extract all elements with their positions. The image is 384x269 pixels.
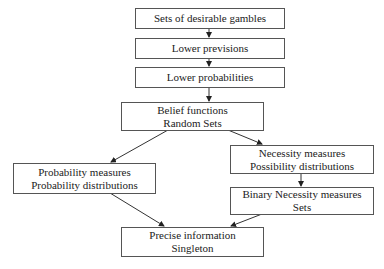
node-label: Lower probabilities: [167, 71, 253, 84]
node-sublabel: Possibility distributions: [250, 160, 354, 173]
node-label: Probability measures: [38, 166, 131, 179]
node-sublabel: Probability distributions: [31, 179, 138, 192]
node-sublabel: Singleton: [171, 242, 213, 255]
node-precise-information: Precise information Singleton: [121, 227, 264, 257]
node-probability-measures: Probability measures Probability distrib…: [13, 163, 156, 194]
node-binary-necessity: Binary Necessity measures Sets: [230, 187, 374, 215]
node-label: Lower previsions: [172, 42, 249, 55]
node-label: Sets of desirable gambles: [154, 12, 266, 25]
edge-belief-necessity: [228, 130, 262, 144]
edge-belief-probability: [111, 130, 168, 162]
node-belief-functions: Belief functions Random Sets: [121, 102, 264, 131]
node-necessity-measures: Necessity measures Possibility distribut…: [230, 145, 374, 174]
node-label: Necessity measures: [259, 147, 345, 160]
node-desirable-gambles: Sets of desirable gambles: [135, 8, 285, 29]
edge-probability-precise: [110, 193, 164, 226]
node-label: Belief functions: [157, 104, 228, 117]
node-label: Precise information: [149, 229, 235, 242]
node-sublabel: Sets: [293, 201, 311, 214]
node-sublabel: Random Sets: [163, 117, 221, 130]
edge-binary-precise: [231, 214, 262, 226]
node-label: Binary Necessity measures: [242, 188, 361, 201]
node-lower-previsions: Lower previsions: [135, 38, 285, 59]
node-lower-probabilities: Lower probabilities: [135, 67, 285, 88]
